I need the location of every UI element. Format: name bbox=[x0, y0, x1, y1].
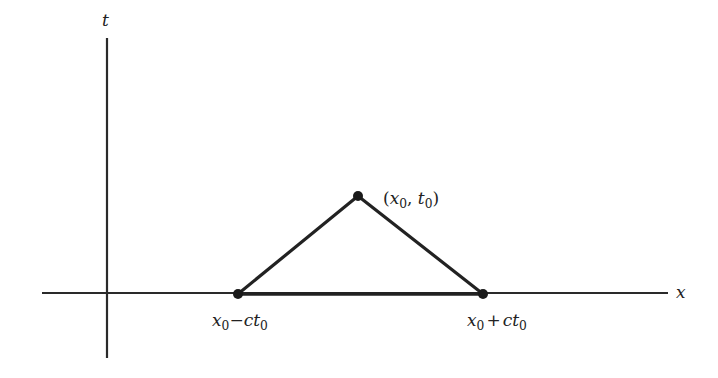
c-coefficient: c bbox=[503, 310, 513, 330]
t-variable: t bbox=[512, 310, 519, 330]
left-foot-label: x0−ct0 bbox=[212, 312, 268, 329]
x-axis-label-text: x bbox=[676, 282, 686, 302]
left-characteristic-line bbox=[238, 196, 358, 294]
right-foot-label: x0+ct0 bbox=[467, 312, 527, 329]
separator: , bbox=[407, 188, 418, 208]
characteristic-triangle-figure: t x (x0, t0) x0−ct0 x0+ct0 bbox=[0, 0, 718, 378]
t-variable: t bbox=[418, 188, 425, 208]
c-coefficient: c bbox=[244, 310, 254, 330]
open-paren: ( bbox=[383, 188, 390, 208]
x-variable: x bbox=[212, 310, 222, 330]
apex-point-label: (x0, t0) bbox=[383, 190, 439, 207]
apex-point bbox=[353, 191, 363, 201]
t-axis-label: t bbox=[102, 12, 109, 29]
right-foot-point bbox=[478, 289, 488, 299]
x-axis-label: x bbox=[676, 284, 686, 301]
t-axis-label-text: t bbox=[102, 10, 109, 30]
left-foot-point bbox=[233, 289, 243, 299]
t-subscript: 0 bbox=[260, 319, 268, 333]
close-paren: ) bbox=[432, 188, 439, 208]
t-variable: t bbox=[253, 310, 260, 330]
x-variable: x bbox=[467, 310, 477, 330]
right-characteristic-line bbox=[358, 196, 483, 294]
x-subscript: 0 bbox=[399, 197, 407, 211]
x-variable: x bbox=[390, 188, 400, 208]
minus-operator: − bbox=[229, 310, 243, 330]
t-subscript: 0 bbox=[519, 319, 527, 333]
diagram-canvas bbox=[0, 0, 718, 378]
plus-operator: + bbox=[484, 310, 502, 330]
